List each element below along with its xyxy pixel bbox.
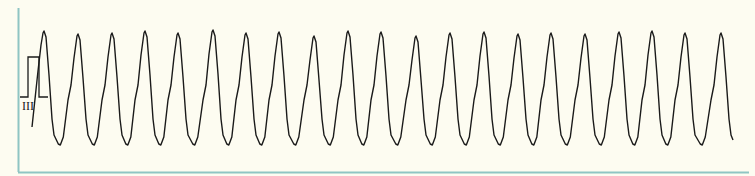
ecg-chart: III (0, 0, 755, 176)
ecg-strip: III (0, 0, 755, 176)
ecg-trace (32, 30, 733, 145)
calibration-pulse (20, 57, 48, 97)
lead-label: III (22, 99, 34, 113)
